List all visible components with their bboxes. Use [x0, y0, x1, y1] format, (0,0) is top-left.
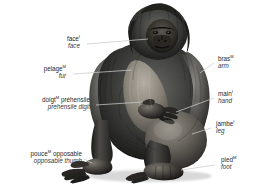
label-pelage-en: fur	[14, 73, 66, 80]
label-leg-en: leg	[216, 128, 252, 135]
label-opposable-thumb: pouceM opposable opposable thumb	[0, 151, 82, 165]
label-arm-en: arm	[218, 63, 252, 70]
label-hand: mainf hand	[218, 91, 252, 105]
label-prehensile-digit: doigtM préhensile prehensile digit	[2, 97, 90, 111]
right-eye-highlight	[167, 32, 169, 33]
label-pelage: pelageM fur	[14, 66, 66, 80]
label-hand-en: hand	[218, 98, 252, 105]
label-prehensile-digit-en: prehensile digit	[2, 104, 90, 111]
label-arm: brasM arm	[218, 56, 252, 70]
label-face: facef face	[28, 36, 80, 50]
knee-highlight	[154, 120, 182, 140]
label-foot: piedM foot	[221, 157, 253, 171]
left-eye-highlight	[154, 32, 156, 33]
label-leg: jambef leg	[216, 121, 252, 135]
gorilla-anatomy-diagram: facef face pelageM fur doigtM préhensile…	[0, 0, 253, 185]
label-face-en: face	[28, 43, 80, 50]
gorilla-body	[62, 3, 210, 183]
label-opposable-thumb-en: opposable thumb	[0, 158, 82, 165]
label-foot-en: foot	[221, 164, 253, 171]
